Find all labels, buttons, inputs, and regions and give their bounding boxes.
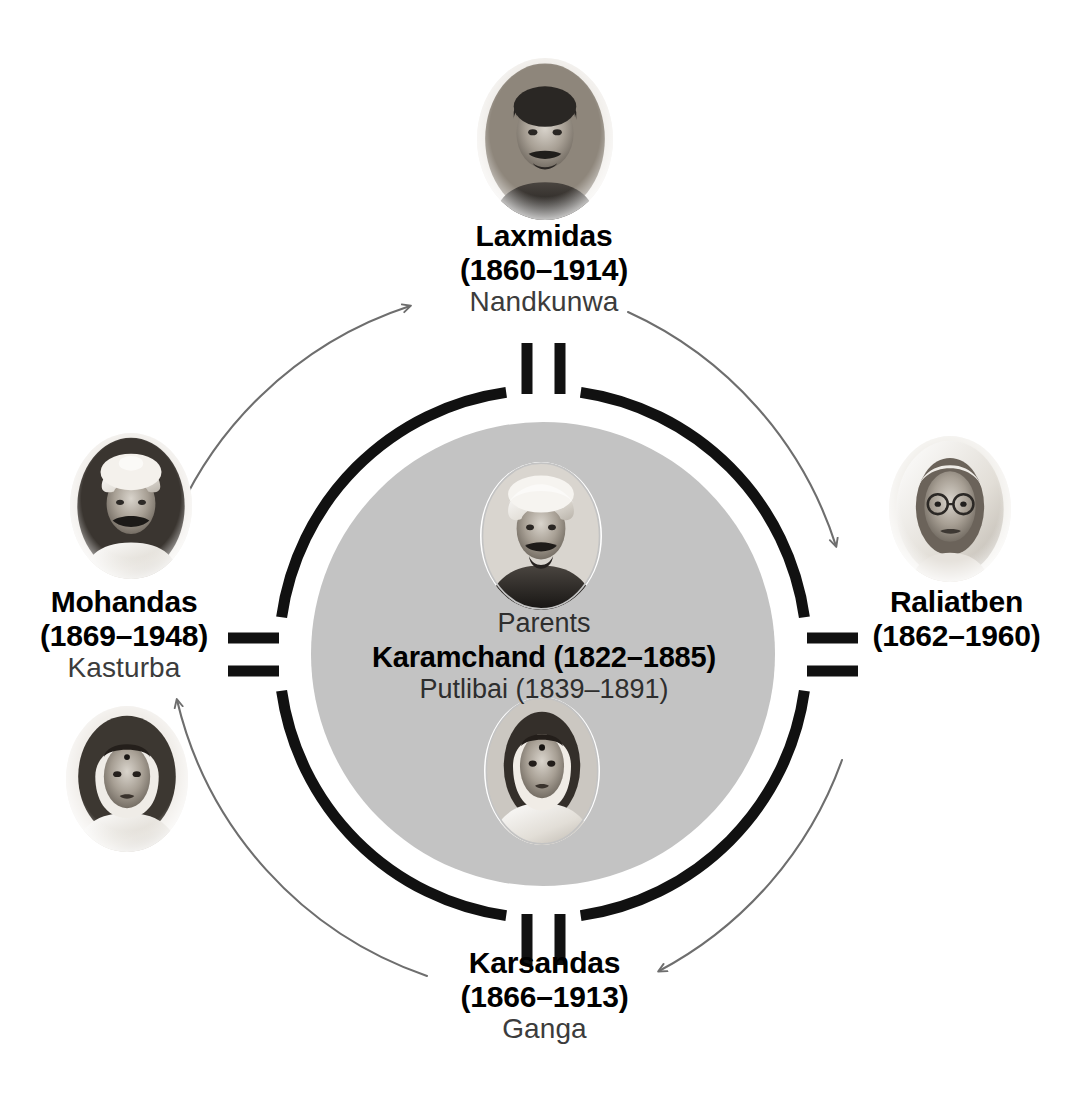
member-spouse: Kasturba xyxy=(2,652,246,683)
member-mohandas[interactable]: Mohandas (1869–1948) Kasturba xyxy=(2,585,246,684)
member-dates: (1862–1960) xyxy=(824,619,1089,653)
member-spouse: Nandkunwa xyxy=(359,286,729,317)
karamchand-portrait xyxy=(480,462,602,610)
member-name: Mohandas xyxy=(2,585,246,619)
member-dates: (1860–1914) xyxy=(359,253,729,287)
mohandas-portrait xyxy=(70,433,192,579)
member-dates: (1866–1913) xyxy=(362,980,727,1014)
member-raliatben[interactable]: Raliatben (1862–1960) xyxy=(824,585,1089,652)
member-name: Laxmidas xyxy=(359,219,729,253)
member-laxmidas[interactable]: Laxmidas (1860–1914) Nandkunwa xyxy=(359,219,729,318)
member-name: Karsandas xyxy=(362,946,727,980)
kasturba-portrait xyxy=(66,706,188,852)
parents-caption: Parents xyxy=(294,608,794,640)
laxmidas-portrait xyxy=(477,58,613,220)
mother-name: Putlibai (1839–1891) xyxy=(294,674,794,706)
member-name: Raliatben xyxy=(824,585,1089,619)
member-spouse: Ganga xyxy=(362,1013,727,1044)
member-karsandas[interactable]: Karsandas (1866–1913) Ganga xyxy=(362,946,727,1045)
putlibai-portrait xyxy=(484,697,600,845)
member-dates: (1869–1948) xyxy=(2,619,246,653)
connector-laxmidas xyxy=(527,343,560,394)
family-circle-diagram: Laxmidas (1860–1914) Nandkunwa Raliatben… xyxy=(0,0,1089,1107)
father-name: Karamchand (1822–1885) xyxy=(294,640,794,674)
raliatben-portrait xyxy=(889,436,1011,582)
parents-block: Parents Karamchand (1822–1885) Putlibai … xyxy=(294,608,794,706)
